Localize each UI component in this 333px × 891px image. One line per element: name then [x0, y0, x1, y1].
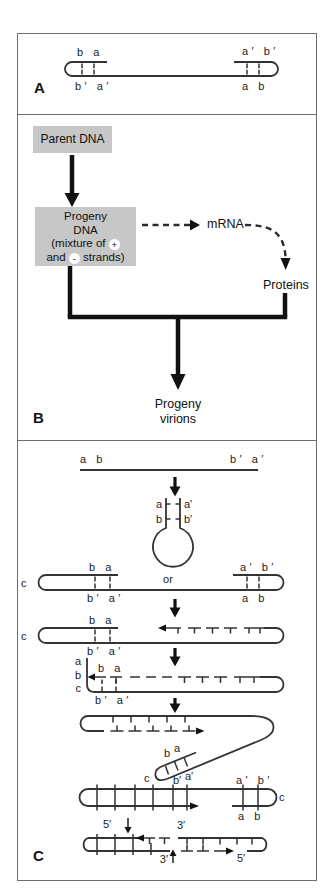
- s7-top-right: a′ b′: [236, 774, 273, 786]
- panel-a-diagram: b a a′ b′ b′ a′ a b: [18, 34, 315, 114]
- s2-a: a: [156, 498, 163, 510]
- panel-a: b a a′ b′ b′ a′ a b A: [17, 33, 317, 116]
- parent-to-progeny-arrow: [65, 155, 80, 207]
- and-text: and: [46, 251, 65, 263]
- s5-pairing-ticks: [102, 680, 116, 692]
- panel-c: a b b′ a′ a b a′ b′ or: [17, 440, 317, 881]
- s3-c: c: [21, 577, 27, 589]
- strands-text: strands): [83, 251, 125, 263]
- s3-ticks: [95, 577, 259, 589]
- s8-top-nick-arrow: [125, 818, 132, 834]
- s3-bottom-left: b′ a′: [87, 592, 124, 604]
- label-bottom-right: a b: [242, 80, 268, 92]
- progeny-dna-box: Progeny DNA (mixture of + and - strands): [35, 207, 136, 266]
- progeny-to-mrna-dashed-arrow: [142, 220, 200, 231]
- s8-bottom-5prime: 5′: [237, 852, 245, 864]
- step-arrow-1: [170, 477, 181, 497]
- hairpin-genome-duplex: [65, 62, 278, 76]
- s6-c: c: [144, 772, 150, 784]
- virions-label-line1: Progeny: [18, 397, 333, 411]
- virions-label-line2: virions: [18, 412, 333, 426]
- mrna-to-proteins-dashed-arrow: [245, 225, 291, 270]
- s6-hp-a-prime: a′: [185, 770, 193, 782]
- displacement-synthesis: [80, 785, 277, 811]
- s7-c: c: [279, 791, 285, 803]
- proteins-label: Proteins: [263, 278, 309, 292]
- s6-hp-b: b: [164, 747, 170, 759]
- s8-bottom-nick-arrow: [170, 850, 177, 864]
- progeny-line3: (mixture of +: [35, 237, 136, 251]
- s6-hp-b-prime: b′: [173, 774, 181, 786]
- panel-a-letter: A: [34, 79, 45, 96]
- s2-b: b: [156, 513, 162, 525]
- s6-template-ticks: [113, 716, 185, 723]
- label-top-right: a′ b′: [242, 45, 279, 57]
- plus-strand-symbol: +: [109, 239, 120, 250]
- merge-bracket-lines: [68, 266, 287, 317]
- parent-dna-label: Parent DNA: [40, 132, 104, 146]
- progeny-line1: Progeny: [35, 210, 136, 224]
- label-bottom-left: b′ a′: [75, 80, 112, 92]
- s4-left-ticks: [95, 630, 110, 642]
- s1-left-label: a b: [80, 453, 106, 465]
- s6-hp-a: a: [174, 742, 181, 754]
- panel-b: Parent DNA Progeny DNA (mixture of + and…: [17, 114, 317, 441]
- s5-side-c: c: [76, 682, 82, 694]
- mixture-text: (mixture of: [51, 237, 105, 249]
- step-arrow-3: [170, 648, 181, 667]
- panhandle-ticks: [166, 504, 180, 519]
- s4-bottom-left: b′ a′: [87, 645, 124, 657]
- s8-right-ticks: [187, 838, 252, 845]
- mrna-label: mRNA: [207, 217, 244, 231]
- progeny-line2: DNA: [35, 224, 136, 238]
- panel-c-letter: C: [33, 847, 44, 864]
- s2-b-prime: b′: [184, 513, 192, 525]
- step-arrow-4: [170, 698, 181, 713]
- base-pair-ticks: [82, 64, 259, 75]
- s3-bottom-right: a b: [242, 592, 268, 604]
- double-hairpin-form: [39, 575, 284, 590]
- s2-a-prime: a′: [184, 498, 192, 510]
- s7-synthesis-arrowhead: [190, 803, 199, 810]
- s4-c: c: [21, 630, 27, 642]
- step-arrow-2: [170, 599, 181, 618]
- s1-right-label: b′ a′: [230, 453, 267, 465]
- s3-top-left: b a: [89, 561, 115, 573]
- s8-bottom-3prime: 3′: [160, 853, 168, 865]
- s6-synthesis-arrowhead: [196, 728, 205, 735]
- panel-c-diagram: a b b′ a′ a b a′ b′ or: [18, 441, 315, 879]
- s4-new-strand: [158, 625, 264, 634]
- s5-top-label: b a: [98, 662, 124, 674]
- s5-side-b: b: [75, 669, 81, 681]
- minus-strand-symbol: -: [69, 253, 80, 264]
- s5-new-strand: [88, 674, 261, 684]
- s8-bottom-new-strand: [181, 845, 234, 855]
- to-virions-arrow: [171, 317, 186, 390]
- genome-strand: [65, 62, 278, 76]
- parent-dna-box: Parent DNA: [33, 126, 112, 153]
- s8-top-new-strand: [136, 835, 170, 845]
- s7-bottom-right: a b: [238, 810, 264, 822]
- s6-new-strand-segments: [111, 726, 196, 732]
- s3-top-right: a′ b′: [240, 561, 277, 573]
- s5-side-a: a: [75, 655, 82, 667]
- label-top-left: b a: [77, 46, 103, 58]
- progeny-line4: and - strands): [35, 251, 136, 265]
- s5-bottom-label: b′ a′: [95, 694, 132, 706]
- s8-top-5prime: 5′: [103, 818, 111, 830]
- s8-top-3prime: 3′: [177, 819, 185, 831]
- figure-page: { "colors": {"line": "#333333", "box_fil…: [0, 0, 333, 891]
- or-label: or: [163, 573, 173, 585]
- panel-b-letter: B: [33, 409, 44, 426]
- s4-top-left: b a: [89, 614, 115, 626]
- panel-b-flow-arrows: [18, 115, 315, 439]
- elongation-intermediate-1: [39, 625, 284, 644]
